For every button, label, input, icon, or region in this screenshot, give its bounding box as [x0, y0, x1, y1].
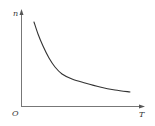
n-vs-t-chart: n T O — [0, 0, 155, 126]
x-axis-arrow-icon — [139, 105, 145, 109]
x-axis-label: T — [139, 110, 145, 119]
origin-label: O — [12, 109, 19, 118]
y-axis-arrow-icon — [20, 9, 24, 15]
data-curve — [34, 22, 130, 92]
y-axis-label: n — [13, 9, 18, 18]
